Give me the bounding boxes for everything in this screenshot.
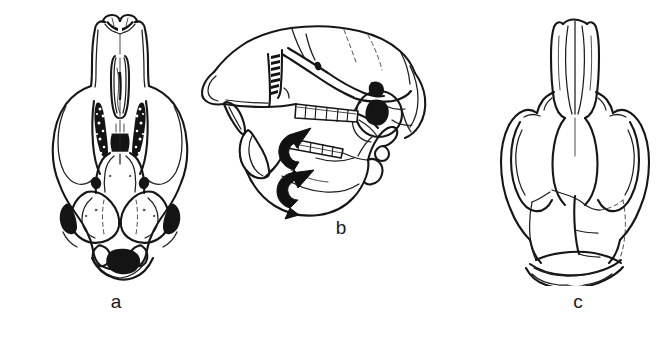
panel-label-c: c (558, 292, 598, 311)
upper-molar-row-right (132, 103, 146, 158)
ventral-skull-drawing (30, 6, 210, 286)
external-auditory-meatus (365, 99, 388, 125)
lower-molar-row-arrow (277, 170, 314, 219)
upper-molar-row-left (94, 103, 108, 158)
upper-molar-row (295, 104, 358, 122)
pterygoid-foramen-right (138, 176, 151, 190)
panel-a-ventral-skull (30, 6, 210, 286)
panel-label-b: b (321, 218, 361, 237)
lateral-skull-drawing (196, 10, 476, 225)
mandible (240, 127, 398, 216)
foramen-magnum (106, 249, 140, 275)
auditory-opening-right (163, 204, 180, 235)
pterygoid-foramen-left (90, 176, 103, 190)
dorsal-skull-drawing (480, 6, 670, 286)
panel-c-dorsal-skull (480, 6, 670, 286)
panel-label-a: a (96, 292, 136, 311)
skull-figure: a b c (0, 0, 671, 337)
auditory-opening-left (60, 204, 77, 235)
zygomatic-plate-hatching (271, 54, 280, 95)
panel-b-lateral-skull (196, 10, 476, 225)
postglenoid-foramen (369, 81, 384, 97)
